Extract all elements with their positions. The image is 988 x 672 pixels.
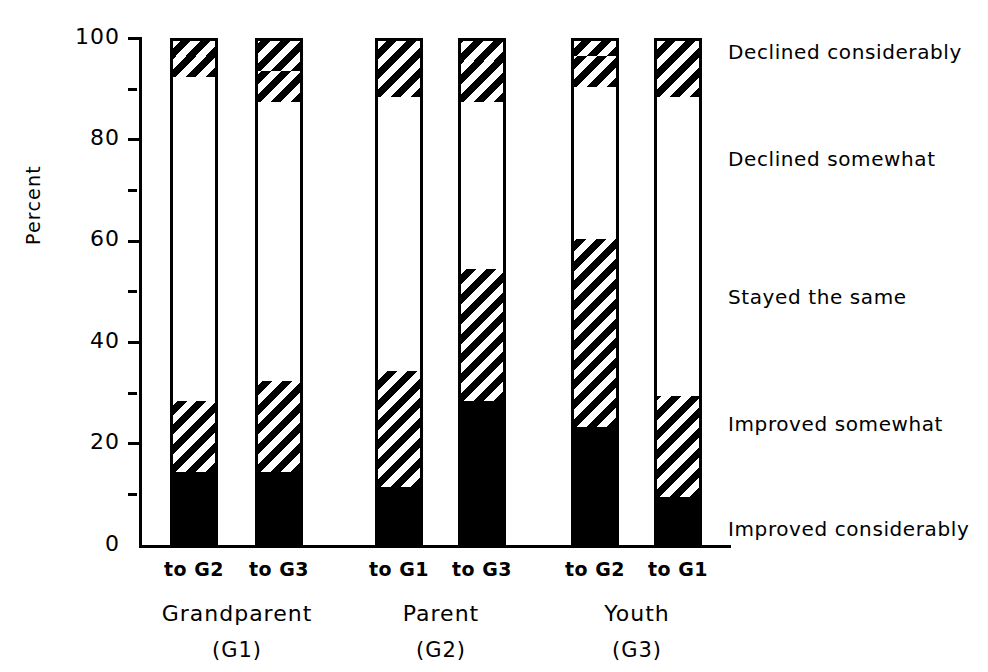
group-sublabel-grandparent: (G1) — [212, 638, 262, 662]
segment-declined-somewhat — [258, 71, 300, 102]
legend-item-improved-somewhat: Improved somewhat — [728, 412, 943, 436]
segment-stayed-the-same — [461, 102, 503, 269]
segment-stayed-the-same — [378, 97, 420, 371]
segment-declined-somewhat — [461, 61, 503, 102]
bar-grandparent-to-g3 — [255, 38, 303, 545]
legend-item-stayed-the-same: Stayed the same — [728, 285, 907, 309]
group-sublabel-youth: (G3) — [612, 638, 662, 662]
segment-stayed-the-same — [574, 87, 616, 239]
segment-improved-somewhat — [258, 381, 300, 472]
x-tick-label-youth-to-g2: to G2 — [565, 558, 625, 580]
segment-improved-somewhat — [657, 396, 699, 497]
bar-grandparent-to-g2 — [170, 38, 218, 545]
segment-stayed-the-same — [173, 77, 215, 401]
segment-declined-somewhat — [378, 77, 420, 97]
x-tick-label-parent-to-g3: to G3 — [452, 558, 512, 580]
segment-improved-somewhat — [173, 401, 215, 472]
stacked-bar-chart: 100 80 60 40 20 0 Percent — [0, 0, 988, 672]
segment-improved-somewhat — [378, 371, 420, 487]
segment-declined-considerably — [657, 41, 699, 97]
x-tick-label-youth-to-g1: to G1 — [648, 558, 708, 580]
group-label-youth: Youth — [604, 601, 670, 626]
segment-declined-somewhat — [173, 56, 215, 77]
segment-declined-considerably — [258, 41, 300, 71]
segment-improved-considerably — [574, 427, 616, 545]
group-label-parent: Parent — [403, 601, 479, 626]
group-label-grandparent: Grandparent — [162, 601, 313, 626]
legend-item-declined-somewhat: Declined somewhat — [728, 147, 936, 171]
segment-declined-considerably — [378, 41, 420, 77]
bar-youth-to-g1 — [654, 38, 702, 545]
x-tick-label-grandparent-to-g2: to G2 — [164, 558, 224, 580]
legend-item-declined-considerably: Declined considerably — [728, 40, 962, 64]
segment-declined-considerably — [173, 41, 215, 56]
segment-stayed-the-same — [657, 97, 699, 396]
segment-stayed-the-same — [258, 102, 300, 381]
bar-parent-to-g3 — [458, 38, 506, 545]
segment-improved-considerably — [173, 472, 215, 545]
legend-item-improved-considerably: Improved considerably — [728, 517, 969, 541]
segment-declined-considerably — [574, 41, 616, 56]
segment-improved-considerably — [657, 497, 699, 545]
segment-improved-somewhat — [461, 269, 503, 401]
x-tick-label-grandparent-to-g3: to G3 — [249, 558, 309, 580]
segment-declined-considerably — [461, 41, 503, 61]
segment-improved-considerably — [258, 472, 300, 545]
segment-improved-considerably — [461, 401, 503, 545]
segment-improved-considerably — [378, 487, 420, 545]
group-sublabel-parent: (G2) — [416, 638, 466, 662]
segment-improved-somewhat — [574, 239, 616, 427]
bar-parent-to-g1 — [375, 38, 423, 545]
bar-youth-to-g2 — [571, 38, 619, 545]
segment-declined-somewhat — [574, 56, 616, 87]
x-tick-label-parent-to-g1: to G1 — [369, 558, 429, 580]
